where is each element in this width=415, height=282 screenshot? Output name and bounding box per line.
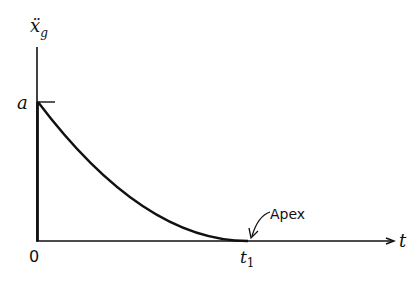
x-axis-label: t [399,230,407,251]
apex-arrow-line [252,212,270,236]
ground-acceleration-diagram: ẍg a 0 t1 t Apex [0,0,415,282]
origin-label: 0 [29,247,39,266]
y-axis-label: ẍg [30,15,48,40]
apex-annotation: Apex [270,206,305,222]
y-tick-label: a [17,92,28,113]
acceleration-curve [38,102,248,241]
x-tick-label: t1 [240,247,254,270]
